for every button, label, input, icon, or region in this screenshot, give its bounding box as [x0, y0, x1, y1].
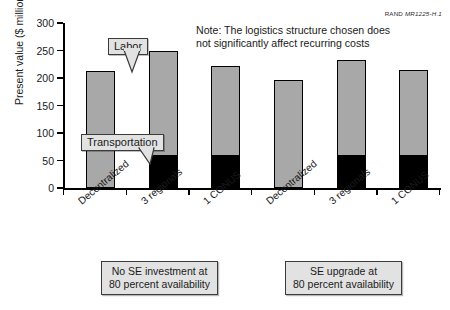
rand-credit: RAND MR1225-H.1 [385, 10, 442, 17]
y-tick-label: 250 [24, 45, 54, 56]
rand-credit-code: MR1225-H.1 [405, 10, 442, 17]
y-tick-label: 150 [24, 100, 54, 111]
group-box-no-se-investment: No SE investment at 80 percent availabil… [101, 261, 218, 295]
group-box-1-line-1: No SE investment at [109, 265, 210, 278]
x-tick-mark [251, 190, 252, 195]
x-tick-mark [376, 190, 377, 195]
y-axis-line [63, 23, 65, 189]
y-tick-mark [57, 50, 63, 51]
y-tick-mark [57, 77, 63, 78]
y-tick-label: 300 [24, 18, 54, 29]
y-tick-label: 0 [24, 183, 54, 194]
x-tick-mark [314, 190, 315, 195]
bar-segment-labor [211, 66, 240, 156]
y-tick-mark [57, 132, 63, 133]
rand-credit-prefix: RAND [385, 10, 403, 17]
y-tick-label: 200 [24, 73, 54, 84]
group-box-se-upgrade: SE upgrade at 80 percent availability [285, 261, 402, 295]
y-tick-mark [57, 22, 63, 23]
x-tick-mark [126, 190, 127, 195]
bar-segment-labor [337, 60, 366, 156]
y-tick-mark [57, 105, 63, 106]
x-tick-mark [63, 190, 64, 195]
y-tick-mark [57, 187, 63, 188]
callout-labor-tail [120, 50, 150, 74]
x-tick-mark [439, 190, 440, 195]
figure-h1: RAND MR1225-H.1 Note: The logistics stru… [0, 0, 450, 310]
y-tick-label: 100 [24, 128, 54, 139]
bar-segment-labor [399, 70, 428, 156]
group-box-2-line-1: SE upgrade at [293, 265, 394, 278]
callout-transportation-tail [140, 148, 170, 172]
group-box-2-line-2: 80 percent availability [293, 278, 394, 291]
x-tick-mark [188, 190, 189, 195]
group-box-1-line-2: 80 percent availability [109, 278, 210, 291]
y-tick-label: 50 [24, 155, 54, 166]
y-tick-mark [57, 160, 63, 161]
